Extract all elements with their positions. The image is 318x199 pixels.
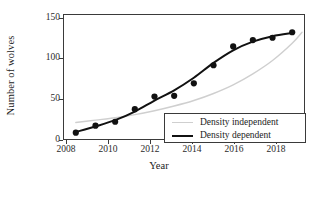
x-tick-label: 2008 (57, 145, 76, 155)
legend-label: Density dependent (200, 131, 271, 141)
x-tick-label: 2016 (225, 145, 244, 155)
data-point (151, 94, 157, 100)
y-axis-title: Number of wolves (6, 35, 17, 115)
x-tick-label: 2018 (267, 145, 286, 155)
y-tick-label: 150 (22, 13, 60, 23)
y-tick-label: 0 (22, 135, 60, 145)
x-tick-label: 2014 (183, 145, 202, 155)
data-point (132, 106, 138, 112)
y-tick-label: 50 (22, 94, 60, 104)
data-point (92, 123, 98, 129)
data-point (73, 130, 79, 136)
density-independent-curve (76, 32, 302, 122)
y-tick-label: 100 (22, 54, 60, 64)
data-point (191, 80, 197, 86)
data-point (210, 62, 216, 68)
wolf-population-chart: Number of wolves 150 100 50 0 2008 2010 … (0, 0, 318, 199)
data-point (171, 93, 177, 99)
legend-item-density-dependent: Density dependent (165, 129, 305, 142)
legend-item-density-independent: Density independent (165, 116, 305, 129)
data-point (112, 119, 118, 125)
chart-legend: Density independent Density dependent (164, 113, 306, 143)
legend-label: Density independent (200, 118, 278, 128)
x-axis-title: Year (0, 160, 318, 171)
legend-line-icon-independent (172, 122, 193, 123)
data-point (250, 37, 256, 43)
data-point (230, 43, 236, 49)
data-point (289, 29, 295, 35)
x-tick-label: 2010 (99, 145, 118, 155)
data-point (269, 35, 275, 41)
y-axis-title-container: Number of wolves (0, 0, 22, 150)
y-tick-mark (59, 140, 63, 141)
x-tick-label: 2012 (141, 145, 160, 155)
legend-line-icon-dependent (172, 135, 193, 137)
